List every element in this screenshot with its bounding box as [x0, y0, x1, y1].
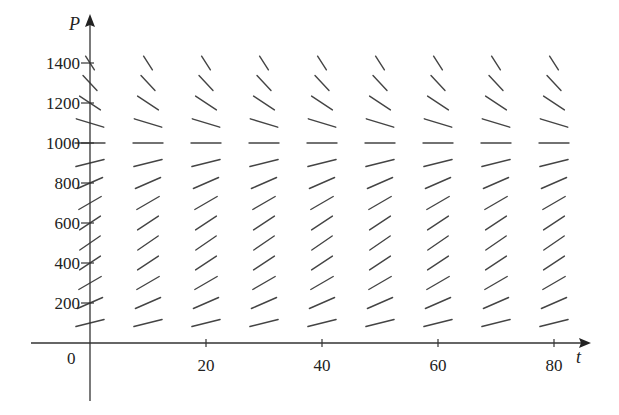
- slope-segment: [250, 320, 278, 327]
- slope-segment: [254, 216, 275, 230]
- slope-field-chart: t P 0 20406080 200400600800100012001400: [0, 0, 619, 415]
- slope-segment: [541, 298, 566, 309]
- x-tick-label: 40: [314, 356, 331, 375]
- x-tick-label: 20: [198, 356, 215, 375]
- slope-segment: [486, 256, 507, 270]
- slope-segment: [428, 96, 449, 110]
- slope-segment: [540, 119, 567, 127]
- slope-segment: [424, 119, 451, 127]
- slope-segment: [312, 236, 332, 250]
- slope-segment: [370, 96, 391, 110]
- slope-segment: [544, 96, 565, 110]
- slope-segment: [424, 160, 452, 167]
- slope-segment: [250, 119, 277, 127]
- slope-segment: [540, 160, 568, 167]
- slope-segment: [544, 236, 564, 250]
- slope-segment: [543, 277, 565, 290]
- slope-segment: [370, 216, 391, 230]
- slope-segment: [250, 160, 278, 167]
- slope-segment: [544, 216, 565, 230]
- y-ticks: 200400600800100012001400: [46, 54, 94, 313]
- y-tick-label: 1400: [46, 54, 80, 73]
- slope-segment: [312, 96, 333, 110]
- slope-segments: [75, 56, 569, 326]
- y-axis-label: P: [68, 14, 80, 34]
- y-tick-label: 800: [55, 174, 81, 193]
- slope-segment: [138, 96, 159, 110]
- slope-segment: [431, 76, 445, 91]
- slope-segment: [137, 197, 159, 210]
- slope-segment: [254, 236, 274, 250]
- y-tick-label: 1200: [46, 94, 80, 113]
- slope-segment: [540, 320, 568, 327]
- slope-segment: [544, 256, 565, 270]
- slope-segment: [134, 320, 162, 327]
- slope-segment: [434, 56, 443, 70]
- slope-segment: [547, 76, 561, 91]
- slope-segment: [254, 96, 275, 110]
- slope-segment: [376, 56, 385, 70]
- slope-segment: [486, 96, 507, 110]
- slope-segment: [138, 236, 158, 250]
- slope-segment: [427, 277, 449, 290]
- slope-segment: [482, 160, 510, 167]
- slope-segment: [312, 216, 333, 230]
- slope-segment: [485, 277, 507, 290]
- slope-segment: [253, 197, 275, 210]
- slope-segment: [311, 277, 333, 290]
- slope-segment: [312, 256, 333, 270]
- slope-segment: [193, 298, 218, 309]
- slope-segment: [428, 216, 449, 230]
- slope-segment: [137, 277, 159, 290]
- slope-segment: [482, 119, 509, 127]
- slope-segment: [199, 76, 213, 91]
- slope-segment: [428, 256, 449, 270]
- slope-segment: [367, 178, 392, 189]
- slope-segment: [195, 197, 217, 210]
- slope-segment: [424, 320, 452, 327]
- slope-segment: [541, 178, 566, 189]
- y-tick-label: 1000: [46, 134, 80, 153]
- slope-segment: [318, 56, 327, 70]
- x-axis-label: t: [576, 347, 582, 367]
- slope-segment: [192, 119, 219, 127]
- slope-segment: [483, 298, 508, 309]
- slope-segment: [486, 216, 507, 230]
- slope-segment: [428, 236, 448, 250]
- slope-segment: [425, 178, 450, 189]
- slope-segment: [427, 197, 449, 210]
- slope-segment: [315, 76, 329, 91]
- slope-segment: [308, 119, 335, 127]
- slope-segment: [308, 160, 336, 167]
- slope-segment: [192, 320, 220, 327]
- slope-segment: [308, 320, 336, 327]
- slope-segment: [309, 298, 334, 309]
- slope-segment: [134, 160, 162, 167]
- slope-segment: [425, 298, 450, 309]
- slope-segment: [138, 216, 159, 230]
- slope-segment: [369, 277, 391, 290]
- slope-segment: [196, 256, 217, 270]
- slope-segment: [492, 56, 501, 70]
- slope-segment: [311, 197, 333, 210]
- slope-segment: [196, 96, 217, 110]
- slope-segment: [367, 298, 392, 309]
- slope-segment: [195, 277, 217, 290]
- slope-segment: [253, 277, 275, 290]
- slope-segment: [196, 236, 216, 250]
- slope-segment: [370, 236, 390, 250]
- slope-segment: [482, 320, 510, 327]
- slope-segment: [251, 298, 276, 309]
- slope-segment: [135, 178, 160, 189]
- slope-segment: [193, 178, 218, 189]
- origin-label: 0: [67, 349, 76, 368]
- slope-segment: [309, 178, 334, 189]
- y-tick-label: 400: [55, 254, 81, 273]
- x-axis: t: [31, 338, 591, 367]
- slope-segment: [144, 56, 153, 70]
- slope-segment: [141, 76, 155, 91]
- slope-segment: [370, 256, 391, 270]
- y-tick-label: 600: [55, 214, 81, 233]
- slope-segment: [192, 160, 220, 167]
- y-tick-label: 200: [55, 294, 81, 313]
